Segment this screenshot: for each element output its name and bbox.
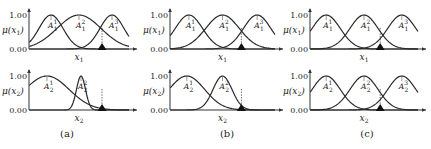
mf-label: A21 [219,18,230,32]
x-axis-label: x2 [360,113,369,124]
x-axis-arrow-icon [133,47,137,51]
mf-label: A12 [322,79,333,93]
y-axis-arrow-icon [168,8,172,12]
mf-label: A31 [253,18,264,32]
ytick-bottom: 0.00 [9,106,27,115]
mf-label: A21 [360,18,371,32]
y-axis-arrow-icon [168,69,172,73]
subplot-x1: 1.000.00μ(x1)x1A11A21A31 [143,8,283,63]
mf-label: A32 [398,79,409,93]
y-axis-arrow-icon [308,8,312,12]
y-axis-label: μ(x1) [143,25,165,36]
y-axis-label: μ(x2) [2,86,24,97]
input-marker-icon [376,104,385,111]
x-axis-arrow-icon [279,47,283,51]
ytick-top: 1.00 [290,72,308,81]
panel-caption: (a) [60,128,74,139]
mf-label: A21 [75,18,86,32]
y-axis-arrow-icon [27,69,31,73]
mf-label: A12 [43,79,54,93]
panel-2: 1.000.00μ(x1)x1A11A21A311.000.00μ(x2)x2A… [143,8,283,139]
ytick-top: 1.00 [150,72,168,81]
figure: 1.000.00μ(x1)x1A11A21A311.000.00μ(x2)x2A… [0,0,431,149]
x-axis-arrow-icon [422,47,426,51]
x-axis-label: x1 [218,52,227,63]
mf-label: A31 [108,18,119,32]
x-axis-arrow-icon [422,108,426,112]
panel-3: 1.000.00μ(x1)x1A11A21A311.000.00μ(x2)x2A… [283,8,426,139]
subplot-x2: 1.000.00μ(x2)x2A12A22 [2,69,137,124]
ytick-top: 1.00 [9,11,27,20]
x-axis-label: x1 [360,52,369,63]
y-axis-label: μ(x2) [143,86,165,97]
ytick-top: 1.00 [290,11,308,20]
mf-label: A31 [398,18,409,32]
ytick-bottom: 0.00 [150,45,168,54]
mf-label: A11 [185,18,196,32]
y-axis-label: μ(x2) [283,86,305,97]
ytick-bottom: 0.00 [150,106,168,115]
x-axis-label: x2 [75,113,84,124]
input-marker-icon [237,43,246,50]
subplot-x2: 1.000.00μ(x2)x2A12A22 [143,69,283,124]
input-marker-icon [376,43,385,50]
subplot-x2: 1.000.00μ(x2)x2A12A22A32 [283,69,426,124]
x-axis-arrow-icon [279,108,283,112]
ytick-top: 1.00 [150,11,168,20]
panel-caption: (c) [360,128,374,139]
ytick-bottom: 0.00 [290,106,308,115]
subplot-x1: 1.000.00μ(x1)x1A11A21A31 [283,8,426,63]
x-axis-arrow-icon [133,108,137,112]
ytick-bottom: 0.00 [290,45,308,54]
mf-label: A12 [183,79,194,93]
panel-1: 1.000.00μ(x1)x1A11A21A311.000.00μ(x2)x2A… [2,8,137,139]
y-axis-label: μ(x1) [283,25,305,36]
y-axis-arrow-icon [27,8,31,12]
y-axis-arrow-icon [308,69,312,73]
mf-label: A22 [77,79,88,93]
ytick-top: 1.00 [9,72,27,81]
panel-caption: (b) [220,128,234,139]
mf-label: A11 [322,18,333,32]
mf-label: A22 [219,79,230,93]
y-axis-label: μ(x1) [2,25,24,36]
mf-label: A22 [360,79,371,93]
subplot-x1: 1.000.00μ(x1)x1A11A21A31 [2,8,137,63]
input-marker-icon [98,43,107,50]
x-axis-label: x2 [218,113,227,124]
ytick-bottom: 0.00 [9,45,27,54]
x-axis-label: x1 [75,52,84,63]
